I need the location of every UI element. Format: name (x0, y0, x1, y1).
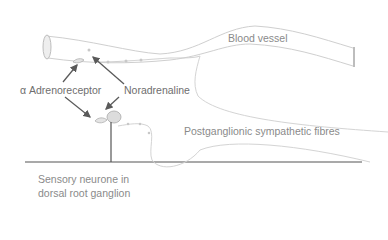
varicosity (140, 59, 143, 62)
sympathetic-fibre-upper (96, 56, 200, 62)
label-sensory-neurone-line2: dorsal root ganglion (38, 186, 130, 200)
blood-vessel-lower-wall (48, 44, 353, 66)
varicosity (88, 49, 91, 52)
varicosity (139, 123, 142, 126)
vessel-receptor (73, 59, 84, 63)
sympathetic-fibre-branch (195, 56, 388, 132)
varicosity (148, 132, 151, 135)
arrow-noradrenaline-to-terminal (106, 97, 119, 109)
arrow-receptor-to-terminal (65, 97, 90, 117)
varicosity (125, 60, 128, 63)
arrow-receptor-to-vessel (63, 65, 77, 82)
label-sensory-neurone-line1: Sensory neurone in (38, 172, 129, 186)
label-postganglionic-fibres: Postganglionic sympathetic fibres (184, 124, 340, 138)
label-blood-vessel: Blood vessel (228, 31, 288, 45)
sensory-terminal (107, 111, 121, 123)
alpha-receptor-on-terminal (95, 118, 107, 123)
blood-vessel-upper-wall (46, 26, 353, 54)
blood-vessel-left-end (43, 35, 51, 59)
label-alpha-adrenoreceptor: α Adrenoreceptor (20, 83, 101, 97)
varicosity (127, 123, 130, 126)
label-noradrenaline: Noradrenaline (124, 83, 190, 97)
varicosity (107, 61, 110, 64)
